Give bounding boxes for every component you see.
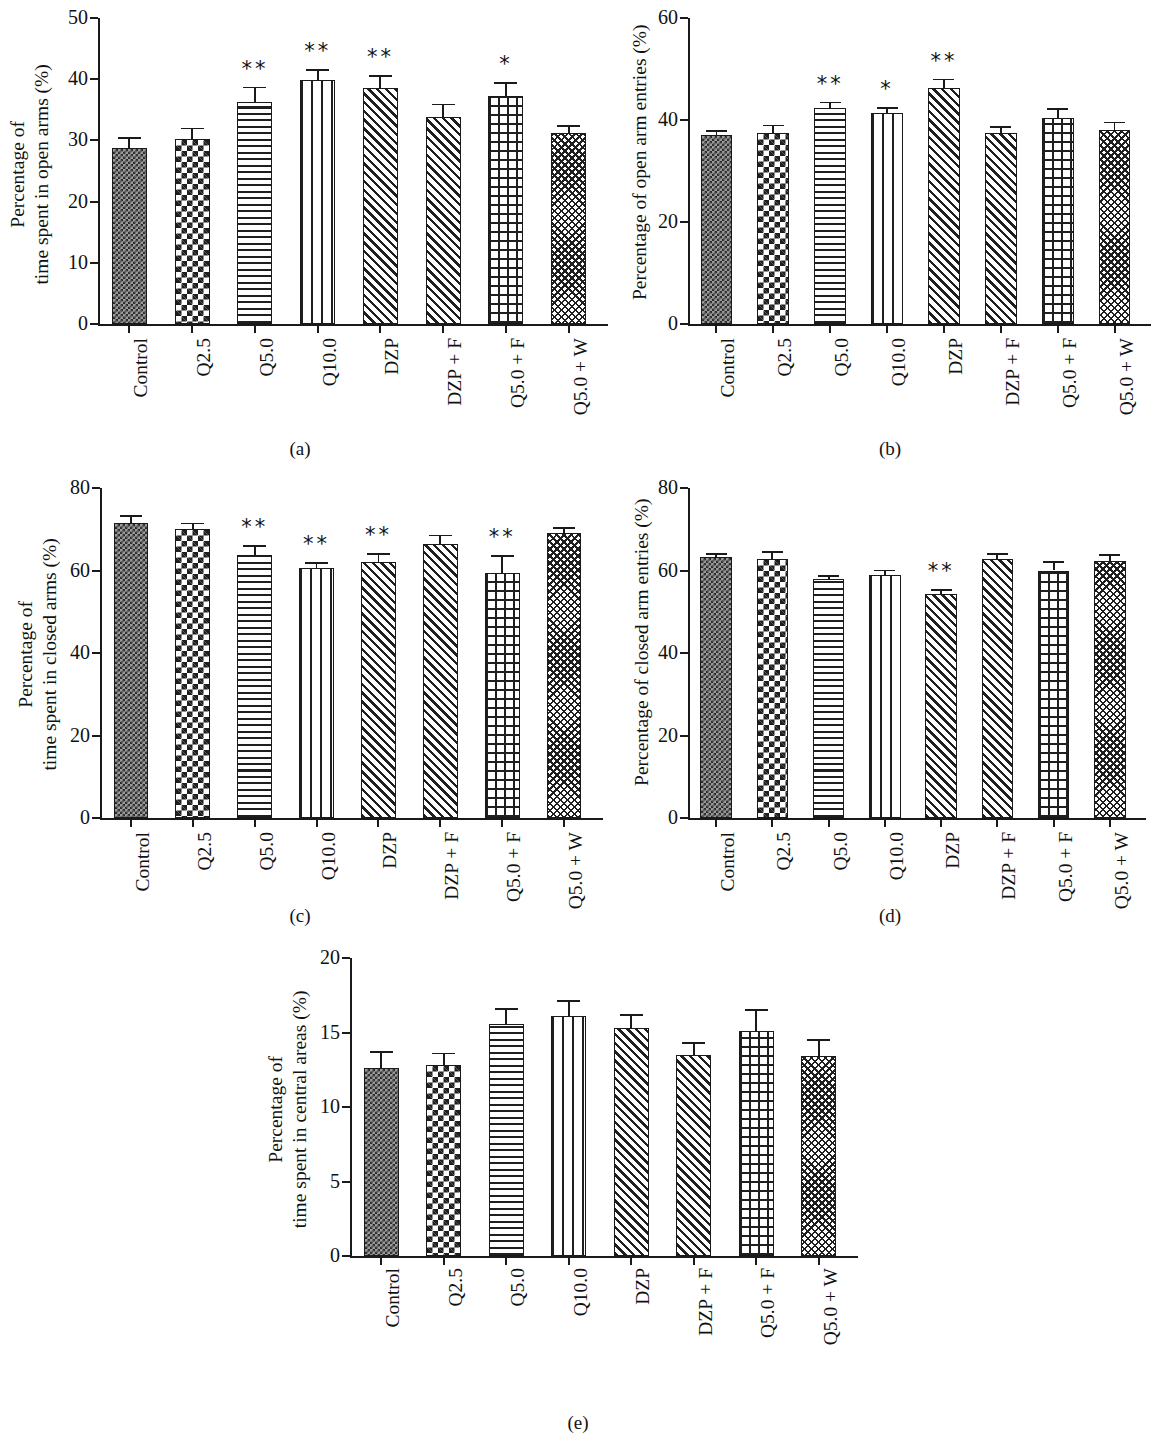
bar-q100 xyxy=(551,1016,586,1256)
error-bar xyxy=(630,1014,632,1028)
y-tick xyxy=(342,1032,350,1034)
y-axis-title: Percentage of time spent in central area… xyxy=(264,929,313,1289)
x-tick-label: Q10.0 xyxy=(571,1268,591,1316)
error-bar xyxy=(755,1009,757,1031)
x-tick-label: Q5.0 xyxy=(508,1268,528,1306)
error-bar xyxy=(818,1039,820,1056)
y-tick xyxy=(342,957,350,959)
bar-control xyxy=(364,1068,399,1256)
x-tick-label: Q5.0 + F xyxy=(758,1268,778,1338)
error-bar-cap xyxy=(557,1000,580,1002)
x-tick xyxy=(568,1258,570,1265)
y-tick xyxy=(342,1106,350,1108)
error-bar xyxy=(693,1042,695,1055)
error-bar-cap xyxy=(495,1008,518,1010)
bar-q25 xyxy=(426,1065,461,1256)
error-bar xyxy=(380,1051,382,1068)
panel-caption: (e) xyxy=(558,1412,598,1434)
error-bar xyxy=(505,1008,507,1024)
error-bar-cap xyxy=(620,1014,643,1016)
bar-q50 xyxy=(489,1024,524,1256)
error-bar-cap xyxy=(807,1039,830,1041)
error-bar-cap xyxy=(432,1053,455,1055)
figure-panel-grid: 01020304050Percentage of time spent in o… xyxy=(0,0,1164,1449)
bar-dzpf xyxy=(676,1055,711,1256)
x-tick xyxy=(443,1258,445,1265)
y-tick xyxy=(342,1181,350,1183)
x-tick xyxy=(818,1258,820,1265)
error-bar xyxy=(568,1000,570,1016)
y-tick xyxy=(342,1255,350,1257)
bar-q50w xyxy=(801,1056,836,1256)
x-tick xyxy=(693,1258,695,1265)
x-tick-label: Q2.5 xyxy=(446,1268,466,1306)
error-bar-cap xyxy=(745,1009,768,1011)
x-axis-line xyxy=(350,1256,858,1258)
error-bar xyxy=(443,1053,445,1066)
x-tick-label: Control xyxy=(383,1268,403,1328)
x-tick xyxy=(755,1258,757,1265)
x-tick xyxy=(380,1258,382,1265)
x-tick xyxy=(630,1258,632,1265)
x-tick-label: DZP xyxy=(633,1268,653,1305)
bar-dzp xyxy=(614,1028,649,1256)
x-tick xyxy=(505,1258,507,1265)
y-axis-line xyxy=(350,958,352,1257)
panel-e: 05101520Percentage of time spent in cent… xyxy=(0,0,1164,1449)
x-tick-label: DZP + F xyxy=(696,1268,716,1336)
error-bar-cap xyxy=(682,1042,705,1044)
error-bar-cap xyxy=(370,1051,393,1053)
x-tick-label: Q5.0 + W xyxy=(821,1268,841,1345)
bar-q50f xyxy=(739,1031,774,1256)
